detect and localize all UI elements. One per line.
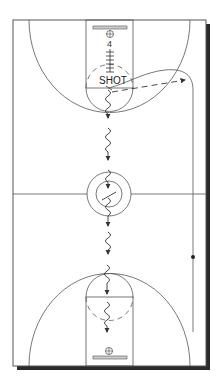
player-position-dot: [191, 255, 195, 259]
basketball-court-diagram: 4 SHOT: [0, 0, 220, 388]
basket-top-icon: [107, 31, 114, 38]
backboard-top: [93, 26, 127, 29]
basket-bottom-icon: [106, 348, 113, 355]
backboard-bottom: [93, 356, 127, 359]
player-number: 4: [107, 39, 112, 49]
shot-label: SHOT: [99, 75, 127, 86]
